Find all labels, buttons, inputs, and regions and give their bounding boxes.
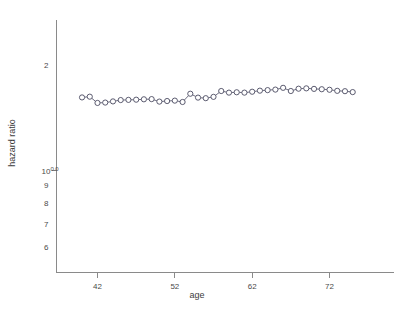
data-point-marker bbox=[350, 89, 355, 94]
data-point-marker bbox=[335, 88, 340, 93]
y-tick-label: 8 bbox=[0, 200, 49, 208]
data-point-marker bbox=[281, 85, 286, 90]
data-point-marker bbox=[226, 90, 231, 95]
data-series-group bbox=[79, 85, 355, 105]
data-point-marker bbox=[219, 88, 224, 93]
data-point-marker bbox=[273, 87, 278, 92]
data-point-marker bbox=[157, 99, 162, 104]
data-point-marker bbox=[118, 97, 123, 102]
series-markers bbox=[79, 85, 355, 105]
series-line bbox=[85, 88, 351, 102]
y-tick-label: 6 bbox=[0, 244, 49, 252]
data-point-marker bbox=[110, 99, 115, 104]
data-point-marker bbox=[103, 100, 108, 105]
data-point-marker bbox=[79, 95, 84, 100]
data-point-marker bbox=[234, 90, 239, 95]
data-point-marker bbox=[195, 95, 200, 100]
data-point-marker bbox=[296, 86, 301, 91]
data-point-marker bbox=[188, 91, 193, 96]
data-point-marker bbox=[95, 100, 100, 105]
data-point-marker bbox=[265, 88, 270, 93]
y-tick-label: 2 bbox=[0, 62, 49, 70]
data-point-marker bbox=[172, 98, 177, 103]
data-point-marker bbox=[342, 89, 347, 94]
data-point-marker bbox=[87, 94, 92, 99]
y-axis-title: hazard ratio bbox=[7, 93, 17, 193]
data-point-marker bbox=[288, 88, 293, 93]
plot-canvas bbox=[0, 0, 394, 314]
data-point-marker bbox=[126, 97, 131, 102]
data-point-marker bbox=[141, 97, 146, 102]
x-axis-title: age bbox=[0, 290, 394, 300]
data-point-marker bbox=[327, 87, 332, 92]
data-point-marker bbox=[180, 99, 185, 104]
x-axis-ticks bbox=[98, 273, 330, 278]
data-point-marker bbox=[134, 97, 139, 102]
data-point-marker bbox=[149, 97, 154, 102]
data-point-marker bbox=[250, 89, 255, 94]
data-point-marker bbox=[203, 96, 208, 101]
axis-lines bbox=[57, 20, 394, 273]
y-tick-label-exponent: 0.0 bbox=[50, 165, 58, 171]
chart-figure: 42526272 2100.09876 age hazard ratio bbox=[0, 0, 394, 314]
data-point-marker bbox=[319, 87, 324, 92]
data-point-marker bbox=[304, 86, 309, 91]
data-point-marker bbox=[257, 88, 262, 93]
data-point-marker bbox=[165, 98, 170, 103]
data-point-marker bbox=[311, 86, 316, 91]
y-tick-label: 7 bbox=[0, 221, 49, 229]
data-point-marker bbox=[211, 94, 216, 99]
data-point-marker bbox=[242, 90, 247, 95]
